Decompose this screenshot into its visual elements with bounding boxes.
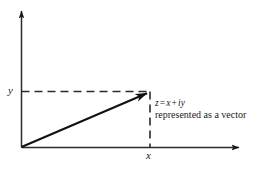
formula-x: x xyxy=(166,98,170,108)
annotation-caption: represented as a vector xyxy=(155,110,263,121)
diagram-canvas xyxy=(0,0,266,170)
figure-container: y x z=x+iy represented as a vector xyxy=(0,0,266,170)
vector-z-arrow xyxy=(22,93,148,147)
formula-iy: iy xyxy=(178,98,185,108)
formula-plus: + xyxy=(171,98,178,108)
x-axis-tick-label: x xyxy=(146,150,151,161)
annotation-formula: z=x+iy xyxy=(155,98,263,108)
y-axis-tick-label: y xyxy=(8,85,13,96)
annotation-block: z=x+iy represented as a vector xyxy=(155,98,263,121)
